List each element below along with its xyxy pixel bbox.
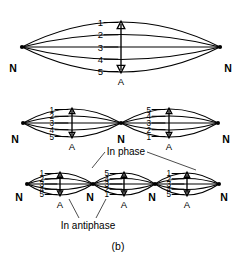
curve-label: 1 (104, 190, 109, 199)
antinode-label: A (69, 141, 76, 152)
node-dot (20, 45, 24, 49)
node-label: N (15, 191, 23, 203)
curve-label: 1 (98, 17, 103, 28)
curve-label: 5 (39, 190, 44, 199)
node-dot (217, 182, 221, 186)
panel-fundamental: 1 2 3 4 5 A N N (9, 17, 232, 87)
node-dot (153, 182, 157, 186)
curve-label: 5 (166, 190, 171, 199)
node-dot (21, 121, 25, 125)
in-phase-leader-left (92, 152, 105, 168)
in-antiphase-annotation: In antiphase (61, 199, 116, 231)
figure-caption: (b) (112, 240, 125, 252)
node-label: N (224, 62, 232, 74)
loop-right-label-ticks (152, 110, 165, 137)
node-label: N (11, 133, 19, 145)
node-dot (119, 121, 123, 125)
loop-left-label-ticks (55, 110, 68, 137)
in-antiphase-label: In antiphase (61, 220, 116, 231)
figure-canvas: 1 2 3 4 5 A N N (0, 0, 237, 259)
node-dot (218, 45, 222, 49)
curve-label: 5 (98, 66, 103, 77)
in-phase-leader-right (147, 152, 196, 170)
node-dot (91, 182, 95, 186)
loop-c-label-ticks (172, 174, 184, 195)
curve-label: 1 (146, 133, 151, 142)
standing-wave-figure: 1 2 3 4 5 A N N (0, 0, 237, 259)
node-label: N (220, 191, 228, 203)
node-label: N (9, 62, 17, 74)
antinode-label: A (184, 199, 191, 210)
in-antiphase-leader-left (69, 199, 79, 218)
curve-label: 3 (98, 42, 103, 53)
panel-third-harmonic: 1 2 3 4 5 A (15, 169, 228, 210)
node-label: N (148, 191, 156, 203)
antinode-label: A (118, 76, 125, 87)
in-antiphase-leader-right (96, 199, 106, 218)
loop-a-label-ticks (45, 174, 57, 195)
node-label: N (86, 191, 94, 203)
node-label: N (117, 133, 125, 145)
loop-b-label-ticks (110, 174, 122, 195)
in-phase-label: In phase (107, 146, 146, 157)
curve-label: 2 (98, 29, 103, 40)
curve-label: 5 (49, 133, 54, 142)
node-dot (216, 121, 220, 125)
antinode-label: A (121, 199, 128, 210)
node-label: N (222, 133, 230, 145)
antinode-label: A (166, 141, 173, 152)
antinode-label: A (57, 199, 64, 210)
node-dot (25, 182, 29, 186)
curve-label: 4 (98, 54, 103, 65)
in-phase-annotation: In phase (92, 146, 196, 170)
loop-1-label-ticks (104, 23, 118, 72)
